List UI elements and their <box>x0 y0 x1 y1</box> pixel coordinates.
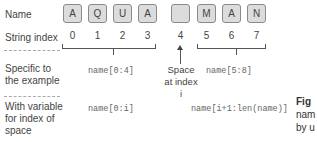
char-box: A <box>138 4 157 23</box>
index-number: 0 <box>63 30 82 41</box>
bracket-right-tick <box>236 49 237 55</box>
caption-line: by u <box>296 121 315 134</box>
index-number: 7 <box>247 30 266 41</box>
bracket-left <box>62 44 156 49</box>
char-box: M <box>197 4 216 23</box>
divider <box>4 50 60 51</box>
caption-title: Fig <box>296 95 315 108</box>
figure-caption: Fig nam by u <box>296 95 315 134</box>
char-box: Q <box>88 4 107 23</box>
row-label-string-index: String index <box>5 32 58 44</box>
bracket-right <box>197 44 266 49</box>
char-box: U <box>113 4 132 23</box>
slice-variable-right: name[i+1:len(name)] <box>191 104 288 114</box>
row-label-name: Name <box>5 9 32 21</box>
index-number: 4 <box>171 30 190 41</box>
row-label-specific: Specific to the example <box>5 63 67 87</box>
space-annotation: Space at index i <box>163 64 199 100</box>
char-box: A <box>63 4 82 23</box>
bracket-left-tick <box>113 49 114 55</box>
index-number: 1 <box>88 30 107 41</box>
slice-specific-right: name[5:8] <box>206 66 252 76</box>
char-box: A <box>222 4 241 23</box>
caption-line: nam <box>296 108 315 121</box>
char-box: N <box>247 4 266 23</box>
arrow-up-icon <box>177 45 183 50</box>
row-label-variable: With variable for index of space <box>5 101 67 137</box>
index-number: 5 <box>197 30 216 41</box>
index-number: 2 <box>113 30 132 41</box>
index-number: 3 <box>138 30 157 41</box>
arrow-shaft <box>180 48 181 64</box>
slice-variable-left: name[0:i] <box>88 104 134 114</box>
char-box-space <box>171 4 190 23</box>
index-number: 6 <box>222 30 241 41</box>
slice-specific-left: name[0:4] <box>88 66 134 76</box>
divider <box>4 96 60 97</box>
